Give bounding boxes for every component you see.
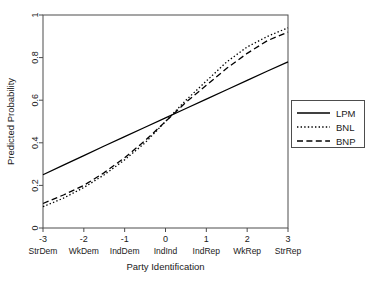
y-axis-title: Predicted Probability [5, 78, 16, 165]
x-tick-label: 1 [204, 234, 209, 244]
x-axis: -3StrDem-2WkDem-1IndDem0IndInd1IndRep2Wk… [29, 228, 302, 256]
x-category-label: WkDem [69, 246, 99, 256]
x-tick-label: 3 [285, 234, 290, 244]
y-tick-label: 0.8 [30, 51, 40, 64]
y-tick-label: 0.6 [30, 94, 40, 107]
predicted-probability-line-chart: 00.20.40.60.81 -3StrDem-2WkDem-1IndDem0I… [0, 0, 373, 286]
y-tick-label: 0 [30, 225, 40, 230]
x-category-label: WkRep [233, 246, 261, 256]
x-category-label: IndRep [193, 246, 221, 256]
x-axis-title: Party Identification [126, 261, 204, 272]
series-line-lpm [43, 62, 288, 175]
legend-label-bnl: BNL [336, 122, 354, 133]
x-category-label: IndInd [154, 246, 178, 256]
x-tick-label: -1 [121, 234, 129, 244]
x-category-label: StrDem [29, 246, 58, 256]
plot-frame [43, 15, 288, 228]
x-tick-label: 2 [245, 234, 250, 244]
x-category-label: StrRep [275, 246, 302, 256]
y-tick-label: 0.2 [30, 179, 40, 192]
x-tick-label: -3 [39, 234, 47, 244]
y-tick-label: 0.4 [30, 137, 40, 150]
legend-label-lpm: LPM [336, 108, 356, 119]
legend-label-bnp: BNP [336, 136, 356, 147]
y-tick-label: 1 [30, 12, 40, 17]
x-tick-label: -2 [80, 234, 88, 244]
x-category-label: IndDem [110, 246, 140, 256]
legend: LPMBNLBNP [292, 101, 365, 148]
chart-figure: 00.20.40.60.81 -3StrDem-2WkDem-1IndDem0I… [0, 0, 373, 286]
x-tick-label: 0 [163, 234, 168, 244]
data-series-group [43, 28, 288, 207]
y-axis: 00.20.40.60.81 [30, 12, 43, 230]
